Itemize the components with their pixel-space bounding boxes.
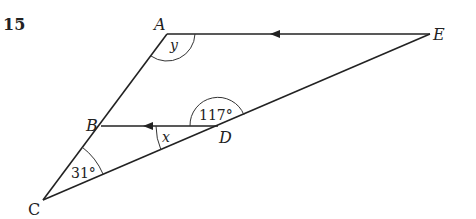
point-label-a: A	[152, 15, 166, 34]
point-label-e: E	[432, 25, 445, 44]
geometry-diagram: A E B D C y 117° x 31°	[0, 0, 476, 219]
parallel-arrow-icon	[143, 122, 153, 130]
point-label-d: D	[218, 128, 232, 147]
angle-label-x: x	[162, 129, 170, 145]
point-label-c: C	[28, 200, 40, 219]
angle-label-117: 117°	[199, 107, 233, 123]
point-label-b: B	[85, 116, 98, 135]
angle-arc-x	[156, 126, 161, 150]
segment-ce	[43, 34, 430, 200]
segment-ac	[43, 34, 167, 200]
parallel-arrow-icon	[270, 30, 280, 38]
angle-label-31: 31°	[71, 165, 96, 181]
angle-label-y: y	[169, 37, 179, 53]
